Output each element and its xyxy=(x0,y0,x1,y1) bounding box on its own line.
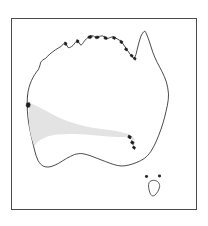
distribution-map-figure xyxy=(0,0,208,226)
flinders-island xyxy=(158,175,161,178)
australia-map-graphic xyxy=(0,0,208,226)
mainland-group xyxy=(26,31,168,167)
west-coast-notch xyxy=(26,103,30,108)
tasmania-outline xyxy=(149,180,160,196)
mainland-coastline xyxy=(27,31,168,167)
bass-strait-islands xyxy=(145,175,161,178)
king-island xyxy=(145,175,148,178)
